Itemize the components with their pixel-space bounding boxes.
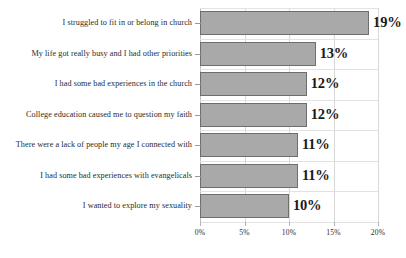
- x-tick-mark: [334, 222, 335, 226]
- bar-row: 11%: [200, 161, 378, 192]
- category-label: I had some bad experiences in the church: [0, 69, 192, 100]
- x-tick-mark: [378, 222, 379, 226]
- bar-row: 11%: [200, 130, 378, 161]
- x-tick-label: 15%: [326, 228, 341, 237]
- bar-value-label: 11%: [302, 163, 330, 188]
- bar-row: 19%: [200, 8, 378, 39]
- bar-row: 12%: [200, 100, 378, 131]
- bar[interactable]: [200, 103, 307, 127]
- plot-area: 19%13%12%12%11%11%10%: [200, 8, 378, 222]
- x-tick-label: 10%: [282, 228, 297, 237]
- bar[interactable]: [200, 164, 298, 188]
- bar-value-label: 11%: [302, 132, 330, 157]
- category-tick-mark: [195, 176, 202, 177]
- x-tick-mark: [245, 222, 246, 226]
- gridline-vertical: [378, 8, 379, 222]
- x-tick-label: 0%: [195, 228, 206, 237]
- bar-value-label: 10%: [293, 193, 321, 218]
- x-tick-mark: [200, 222, 201, 226]
- category-tick-mark: [195, 115, 202, 116]
- bar-row: 13%: [200, 39, 378, 70]
- bar-value-label: 12%: [311, 102, 339, 127]
- category-label: I had some bad experiences with evangeli…: [0, 161, 192, 192]
- category-tick-mark: [195, 206, 202, 207]
- category-tick-mark: [195, 23, 202, 24]
- bar[interactable]: [200, 133, 298, 157]
- x-tick-mark: [289, 222, 290, 226]
- category-label: College education caused me to question …: [0, 100, 192, 131]
- bar-value-label: 12%: [311, 71, 339, 96]
- bar-chart: 19%13%12%12%11%11%10% I struggled to fit…: [0, 0, 406, 258]
- category-label: I wanted to explore my sexuality: [0, 191, 192, 222]
- category-label: My life got really busy and I had other …: [0, 39, 192, 70]
- category-label: I struggled to fit in or belong in churc…: [0, 8, 192, 39]
- bar[interactable]: [200, 72, 307, 96]
- bar-value-label: 19%: [373, 10, 401, 35]
- category-tick-mark: [195, 84, 202, 85]
- category-label: There were a lack of people my age I con…: [0, 130, 192, 161]
- bar-value-label: 13%: [320, 41, 348, 66]
- bar[interactable]: [200, 11, 369, 35]
- category-tick-mark: [195, 145, 202, 146]
- bar-row: 10%: [200, 191, 378, 222]
- category-tick-mark: [195, 54, 202, 55]
- bar[interactable]: [200, 42, 316, 66]
- x-tick-label: 5%: [239, 228, 250, 237]
- bar-row: 12%: [200, 69, 378, 100]
- bar[interactable]: [200, 194, 289, 218]
- x-tick-label: 20%: [371, 228, 386, 237]
